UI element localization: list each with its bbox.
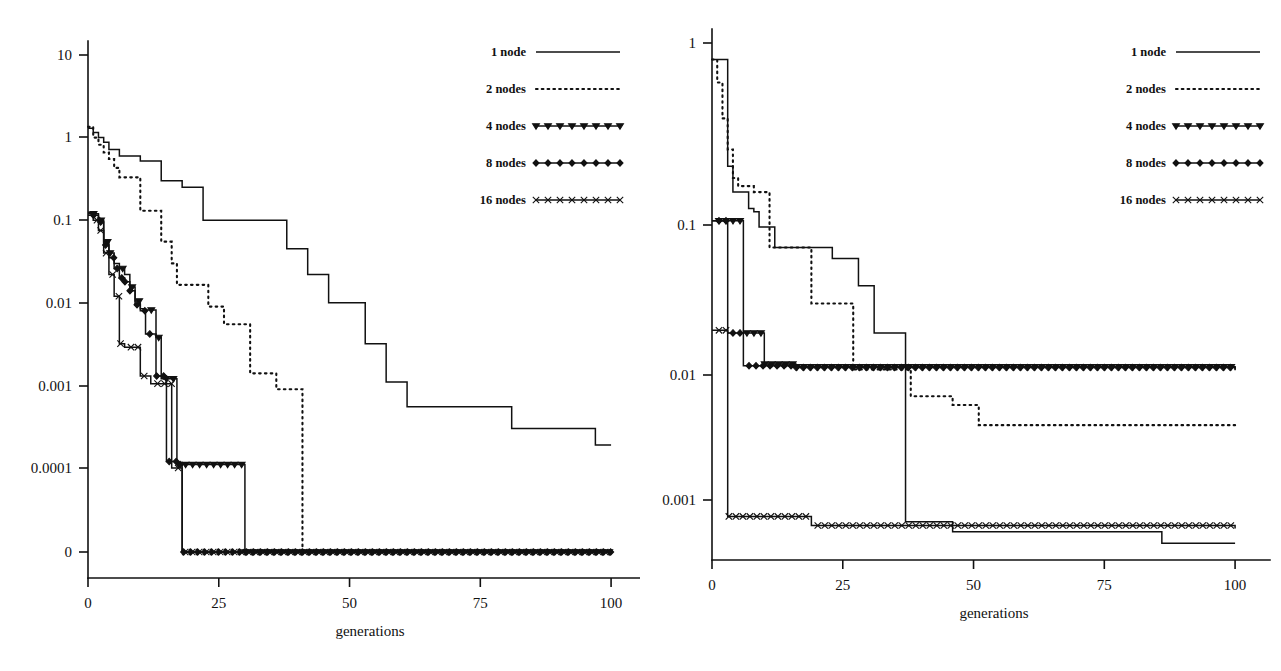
x-tick-label: 0	[84, 595, 92, 611]
series-16-nodes	[88, 215, 611, 555]
series-marker-diamond-icon	[569, 160, 575, 166]
series-marker-diamond-icon	[753, 363, 759, 369]
x-axis-title: generations	[959, 605, 1028, 621]
series-marker-diamond-icon	[154, 373, 160, 379]
x-axis-title: generations	[335, 623, 404, 639]
y-tick-label: 0.001	[662, 492, 696, 508]
y-tick-label: 1	[689, 35, 697, 51]
figure-root: 1010.10.010.0010.000100255075100generati…	[0, 0, 1281, 671]
chart-panel-left: 1010.10.010.0010.000100255075100generati…	[0, 0, 640, 671]
series-marker-diamond-icon	[533, 160, 539, 166]
x-tick-label: 75	[473, 595, 488, 611]
legend-label-1-node: 1 node	[491, 45, 527, 59]
axes-group	[88, 41, 640, 578]
series-marker-diamond-icon	[111, 255, 117, 261]
legend-label-16-nodes: 16 nodes	[480, 193, 526, 207]
legend-label-4-nodes: 4 nodes	[1126, 119, 1166, 133]
x-axis-ticks: 0255075100	[708, 560, 1246, 593]
x-tick-label: 0	[708, 577, 716, 593]
legend-label-2-nodes: 2 nodes	[486, 82, 526, 96]
series-marker-diamond-icon	[1233, 160, 1239, 166]
y-tick-label: 0.01	[670, 367, 696, 383]
series-marker-diamond-icon	[1209, 160, 1215, 166]
series-line	[712, 221, 1235, 370]
y-tick-label: 0.0001	[31, 460, 72, 476]
series-marker-diamond-icon	[593, 160, 599, 166]
series-marker-diamond-icon	[617, 160, 623, 166]
series-2-nodes	[712, 59, 1235, 425]
series-line	[712, 59, 1235, 425]
y-tick-label: 0.1	[677, 217, 696, 233]
left-chart-svg: 1010.10.010.0010.000100255075100generati…	[0, 0, 640, 671]
series-marker-diamond-icon	[147, 331, 153, 337]
series-marker-diamond-icon	[1257, 160, 1263, 166]
x-tick-label: 50	[966, 577, 981, 593]
x-tick-label: 75	[1097, 577, 1112, 593]
series-marker-diamond-icon	[1245, 160, 1251, 166]
legend: 1 node2 nodes4 nodes8 nodes16 nodes	[1120, 45, 1264, 207]
series-marker-diamond-icon	[545, 160, 551, 166]
series-line	[712, 221, 1235, 370]
x-axis-ticks: 0255075100	[84, 578, 622, 611]
x-tick-label: 50	[342, 595, 357, 611]
series-2-nodes	[88, 127, 611, 552]
x-tick-label: 25	[211, 595, 226, 611]
series-line	[88, 127, 611, 552]
series-marker-diamond-icon	[1185, 160, 1191, 166]
series-marker-diamond-icon	[1173, 160, 1179, 166]
legend-label-2-nodes: 2 nodes	[1126, 82, 1166, 96]
y-tick-label: 1	[65, 129, 73, 145]
axes-group	[712, 29, 1270, 560]
series-16-nodes	[712, 327, 1235, 529]
x-tick-label: 25	[835, 577, 850, 593]
y-tick-label: 0	[65, 544, 73, 560]
y-tick-label: 0.001	[38, 378, 72, 394]
legend-label-16-nodes: 16 nodes	[1120, 193, 1166, 207]
series-line	[712, 330, 1235, 528]
series-marker-diamond-icon	[581, 160, 587, 166]
y-tick-label: 10	[57, 47, 72, 63]
series-marker-diamond-icon	[557, 160, 563, 166]
series-line	[88, 215, 611, 552]
series-8-nodes	[712, 218, 1235, 371]
series-marker-diamond-icon	[746, 363, 752, 369]
series-marker-diamond-icon	[730, 330, 736, 336]
y-axis-ticks: 10.10.010.001	[662, 35, 712, 508]
series-line	[88, 214, 611, 552]
legend-label-4-nodes: 4 nodes	[486, 119, 526, 133]
series-4-nodes	[712, 219, 1235, 370]
series-marker-diamond-icon	[737, 330, 743, 336]
legend: 1 node2 nodes4 nodes8 nodes16 nodes	[480, 45, 624, 207]
chart-panel-right: 10.10.010.0010255075100generations1 node…	[640, 0, 1281, 671]
legend-label-8-nodes: 8 nodes	[486, 156, 526, 170]
series-marker-diamond-icon	[1197, 160, 1203, 166]
series-marker-diamond-icon	[1221, 160, 1227, 166]
legend-label-1-node: 1 node	[1131, 45, 1167, 59]
y-axis-ticks: 1010.10.010.0010.00010	[31, 47, 88, 560]
x-tick-label: 100	[600, 595, 623, 611]
series-marker-diamond-icon	[605, 160, 611, 166]
right-chart-svg: 10.10.010.0010255075100generations1 node…	[640, 0, 1281, 671]
y-tick-label: 0.1	[53, 212, 72, 228]
legend-label-8-nodes: 8 nodes	[1126, 156, 1166, 170]
y-tick-label: 0.01	[46, 295, 72, 311]
x-tick-label: 100	[1224, 577, 1247, 593]
